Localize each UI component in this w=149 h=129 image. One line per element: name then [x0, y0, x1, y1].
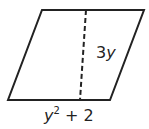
parallelogram: [8, 10, 144, 100]
base-label: y2 + 2: [43, 105, 94, 125]
height-dashed-line: [80, 10, 86, 100]
parallelogram-diagram: 3y y2 + 2: [0, 0, 149, 129]
height-label: 3y: [96, 43, 116, 62]
